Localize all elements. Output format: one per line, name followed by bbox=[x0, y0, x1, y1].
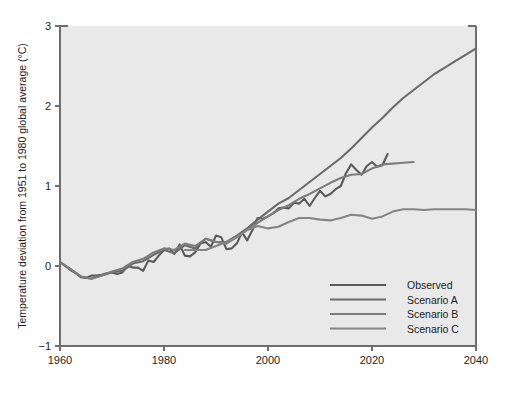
figure-container: −10123 19601980200020202040 ObservedScen… bbox=[0, 0, 509, 395]
y-axis-title: Temperature deviation from 1951 to 1980 … bbox=[16, 43, 28, 329]
y-axis-tick-label: −1 bbox=[38, 340, 51, 352]
temperature-projection-chart: −10123 19601980200020202040 ObservedScen… bbox=[0, 0, 509, 395]
legend-label-observed: Observed bbox=[407, 279, 453, 291]
y-axis-tick-label: 2 bbox=[45, 100, 51, 112]
x-axis-tick-label: 2040 bbox=[464, 354, 488, 366]
y-axis-tick-label: 3 bbox=[45, 20, 51, 32]
y-axis-tick-label: 1 bbox=[45, 180, 51, 192]
legend-label-scenario-b: Scenario B bbox=[407, 308, 458, 320]
x-axis-tick-label: 2020 bbox=[360, 354, 384, 366]
x-axis-tick-label: 1980 bbox=[152, 354, 176, 366]
legend-label-scenario-c: Scenario C bbox=[407, 323, 459, 335]
legend-label-scenario-a: Scenario A bbox=[407, 294, 458, 306]
x-axis-tick-label: 1960 bbox=[48, 354, 72, 366]
x-axis-tick-label: 2000 bbox=[256, 354, 280, 366]
y-axis-tick-label: 0 bbox=[45, 260, 51, 272]
